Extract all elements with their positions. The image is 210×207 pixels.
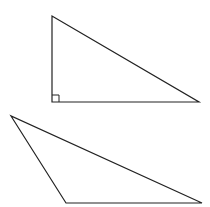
- obtuse-triangle: [11, 116, 202, 203]
- diagram-canvas: [0, 0, 210, 207]
- right-angle-marker: [52, 95, 59, 102]
- right-triangle: [52, 16, 199, 102]
